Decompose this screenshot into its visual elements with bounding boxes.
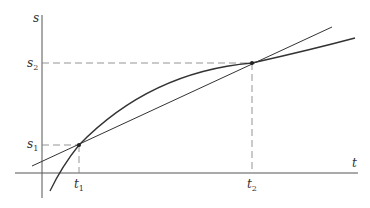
s2-label: s2 bbox=[27, 57, 38, 72]
point-2 bbox=[250, 61, 254, 65]
dashed-guides bbox=[42, 63, 252, 173]
secant-line bbox=[32, 27, 332, 166]
s-axis-label: s bbox=[33, 12, 39, 24]
curve bbox=[50, 38, 355, 191]
t1-label: t1 bbox=[74, 178, 84, 193]
secant-diagram bbox=[0, 0, 370, 208]
t-axis-label: t bbox=[352, 157, 357, 169]
point-1 bbox=[77, 143, 81, 147]
t2-label: t2 bbox=[247, 178, 257, 193]
s1-label: s1 bbox=[27, 138, 38, 153]
